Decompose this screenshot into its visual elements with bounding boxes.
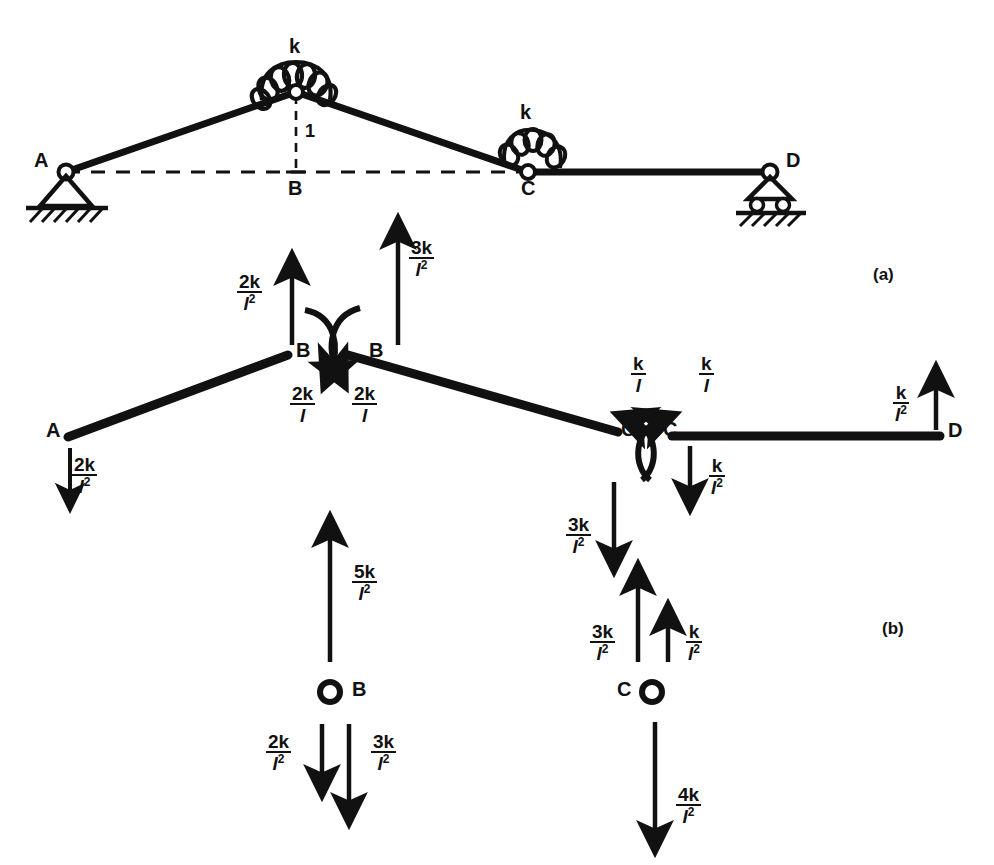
force-label-joint-c-up-1: 3k l2 (590, 622, 615, 664)
force-label-b-left-up: 2k l2 (237, 272, 262, 314)
force-label-joint-c-down: 4k l2 (676, 785, 701, 827)
fb-node-label-b-right: B (369, 340, 383, 360)
unit-displacement-label: 1 (305, 122, 315, 140)
joint-b-circle (320, 682, 340, 702)
fb-member-ab (68, 355, 288, 437)
force-label-d-up: k l2 (893, 383, 909, 425)
force-label-joint-b-down-1: 2k l2 (266, 732, 291, 774)
unit-displacement-marker (286, 95, 306, 172)
hinge-b (289, 85, 303, 99)
roller-support-d (736, 177, 806, 226)
force-label-c-right-down: k l2 (709, 456, 725, 498)
force-label-b-right-up: 3k l2 (409, 238, 434, 280)
fb-node-label-a: A (46, 420, 60, 440)
force-label-c-right-moment: k l (699, 354, 714, 396)
part-a-label: (a) (873, 266, 894, 283)
member-ab (66, 92, 296, 172)
force-label-a-down: 2k l2 (72, 455, 97, 497)
figure-canvas: k k 1 A B C D (a) (b) A B B C C D B C 2k… (0, 0, 994, 865)
diagram-svg (0, 0, 994, 865)
force-label-joint-b-up: 5k l2 (352, 562, 377, 604)
force-label-joint-c-up-2: k l2 (686, 622, 702, 664)
node-label-d: D (786, 150, 800, 170)
node-label-c: C (521, 178, 535, 198)
joint-node-label-b: B (352, 679, 366, 699)
panel-a-structure (26, 62, 806, 226)
spring-label-apex: k (289, 36, 300, 56)
force-label-c-left-down: 3k l2 (566, 515, 591, 557)
node-label-a: A (34, 150, 48, 170)
spring-label-c: k (520, 102, 531, 122)
fb-member-bc (348, 355, 618, 432)
force-label-joint-b-down-2: 3k l2 (371, 732, 396, 774)
pin-support-a (26, 176, 108, 222)
joint-node-label-c: C (617, 679, 631, 699)
fb-node-label-c-left: C (621, 419, 635, 439)
force-label-c-left-moment: k l (631, 354, 646, 396)
panel-b-freebodies (68, 232, 940, 838)
joint-c-circle (642, 682, 662, 702)
part-b-label: (b) (882, 620, 904, 637)
fb-node-label-d: D (948, 420, 962, 440)
node-label-b: B (288, 178, 302, 198)
fb-node-label-c-right: C (663, 419, 677, 439)
force-label-b-right-moment: 2k l (352, 384, 377, 426)
fb-node-label-b-left: B (296, 340, 310, 360)
force-label-b-left-moment: 2k l (290, 384, 315, 426)
